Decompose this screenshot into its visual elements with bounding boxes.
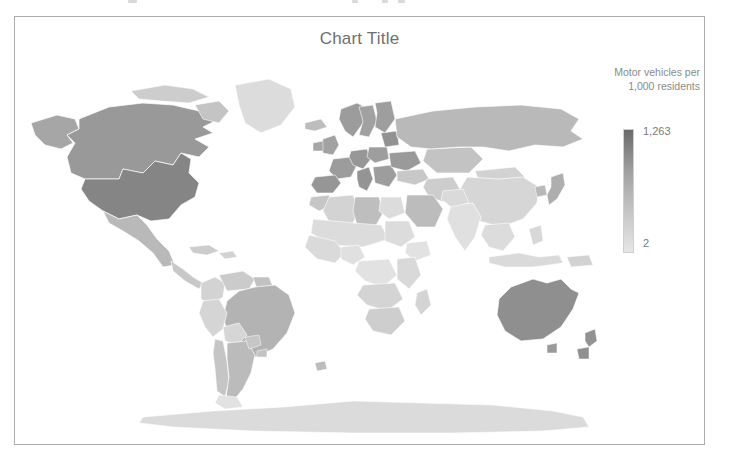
map-region-ukraine[interactable] <box>389 151 421 171</box>
world-choropleth-map[interactable] <box>23 61 603 437</box>
map-legend[interactable]: Motor vehicles per 1,000 residents 1,263… <box>598 65 702 265</box>
map-region-egypt[interactable] <box>379 197 405 219</box>
map-region-new-zealand-south[interactable] <box>577 347 589 359</box>
map-region-hispaniola[interactable] <box>219 251 237 259</box>
legend-title: Motor vehicles per 1,000 residents <box>598 65 700 93</box>
legend-gradient-bar <box>623 129 634 253</box>
chart-title[interactable]: Chart Title <box>15 29 704 49</box>
map-region-madagascar[interactable] <box>415 289 431 315</box>
map-region-poland[interactable] <box>367 147 389 163</box>
map-region-chile[interactable] <box>213 339 229 397</box>
map-region-antarctica[interactable] <box>139 401 589 433</box>
map-region-turkey[interactable] <box>397 169 429 185</box>
map-region-korea[interactable] <box>535 185 547 197</box>
map-region-balkans[interactable] <box>373 165 397 187</box>
legend-title-line1: Motor vehicles per <box>614 66 700 78</box>
map-region-south-africa[interactable] <box>365 307 405 335</box>
map-region-southeast-asia[interactable] <box>481 223 515 251</box>
map-region-ireland[interactable] <box>313 141 323 151</box>
map-region-philippines[interactable] <box>529 225 543 245</box>
map-region-italy[interactable] <box>357 167 373 191</box>
map-region-united-kingdom[interactable] <box>321 135 339 155</box>
map-region-alaska[interactable] <box>31 115 79 149</box>
legend-title-line2: 1,000 residents <box>598 79 700 93</box>
map-region-kazakhstan[interactable] <box>423 147 483 173</box>
map-region-south-georgia[interactable] <box>315 361 327 371</box>
map-region-finland[interactable] <box>375 101 395 133</box>
map-region-tasmania[interactable] <box>547 343 557 353</box>
map-region-greenland[interactable] <box>235 79 295 133</box>
map-region-argentina[interactable] <box>226 341 255 401</box>
map-region-png[interactable] <box>567 255 593 267</box>
map-region-iceland[interactable] <box>305 119 327 131</box>
map-region-dr-congo[interactable] <box>355 259 397 287</box>
map-region-australia[interactable] <box>497 279 579 341</box>
map-region-angola-zambia[interactable] <box>357 283 403 311</box>
map-region-russia[interactable] <box>395 105 583 151</box>
chart-frame[interactable]: Chart Title <box>14 16 705 445</box>
map-plot-area[interactable] <box>23 61 603 437</box>
map-region-caribbean[interactable] <box>189 245 219 255</box>
map-region-spain-portugal[interactable] <box>311 175 341 193</box>
map-region-india[interactable] <box>447 203 481 251</box>
cropped-text-artifact <box>0 0 736 8</box>
map-region-arctic-islands[interactable] <box>131 85 209 103</box>
map-region-libya[interactable] <box>353 197 383 227</box>
map-region-indonesia[interactable] <box>489 253 563 267</box>
legend-min-label: 2 <box>643 237 649 249</box>
map-region-peru[interactable] <box>199 299 227 337</box>
map-region-canada[interactable] <box>67 103 215 179</box>
legend-max-label: 1,263 <box>643 125 671 137</box>
map-region-japan[interactable] <box>547 173 565 205</box>
map-region-central-america[interactable] <box>171 261 203 289</box>
map-region-east-africa[interactable] <box>397 257 421 289</box>
map-region-antarctic-peninsula[interactable] <box>215 395 243 409</box>
map-region-new-zealand[interactable] <box>585 329 597 347</box>
